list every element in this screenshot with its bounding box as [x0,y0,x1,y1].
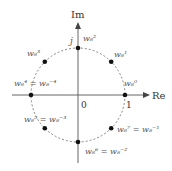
label-w5: w₈⁵ = w₈⁻³ [24,115,67,124]
real-axis-label: Re [152,90,166,101]
point-w0 [123,93,128,98]
point-w7 [109,126,114,131]
label-w0: w₈⁰ [124,79,138,88]
imag-axis-arrow-icon [75,22,81,29]
imag-axis-label: Im [71,9,85,20]
point-w3 [43,60,48,65]
label-w2: w₈² [83,34,96,43]
point-w2 [76,46,81,51]
point-w5 [43,126,48,131]
label-w7: w₈⁷ = w₈⁻¹ [117,125,160,134]
real-axis-arrow-icon [143,92,150,98]
one-label: 1 [126,100,132,110]
unit-circle-diagram: Im Re 0 1 j w₈² w₈¹ w₈³ w₈⁰ w₈⁴ = w₈⁻⁴ w… [0,0,172,171]
label-w3: w₈³ [27,49,40,58]
origin-label: 0 [81,100,87,110]
point-w6 [76,140,81,145]
label-w6: w₈⁶ = w₈⁻² [85,147,128,156]
j-label: j [68,36,73,46]
point-w1 [109,60,114,65]
label-w4: w₈⁴ = w₈⁻⁴ [14,79,57,88]
point-w4 [29,93,34,98]
label-w1: w₈¹ [114,50,127,59]
